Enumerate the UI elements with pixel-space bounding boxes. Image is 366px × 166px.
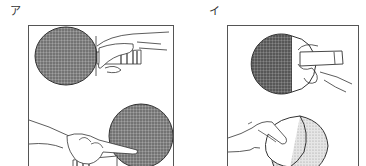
shakehand-illustration (29, 26, 173, 166)
panel-label-a: ア (10, 6, 21, 17)
penholder-illustration (228, 26, 358, 166)
paddle-top (251, 34, 352, 94)
paddle-bottom (29, 104, 173, 166)
panel-label-i: イ (209, 6, 220, 17)
paddle-top (35, 27, 169, 85)
panel-penholder (227, 25, 359, 166)
paddle-bottom (228, 116, 328, 166)
panel-shakehand (28, 25, 174, 166)
